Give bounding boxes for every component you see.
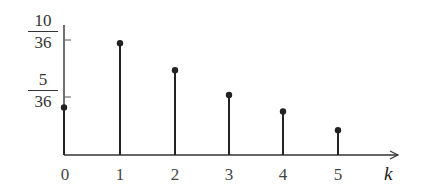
ytick-denominator: 36 [28,91,58,110]
ytick-numerator: 5 [28,71,58,91]
xtick-label-4: 4 [273,165,293,185]
stem-marker-4 [280,108,286,114]
stems [61,40,341,155]
ytick-label-5-36: 5 36 [28,71,58,110]
x-axis-label: k [384,163,392,185]
stem-marker-1 [117,40,123,46]
stem-marker-2 [172,67,178,73]
stem-marker-0 [61,104,67,110]
xtick-label-5: 5 [328,165,348,185]
xtick-label-0: 0 [55,165,75,185]
stem-marker-3 [226,92,232,98]
xtick-label-2: 2 [165,165,185,185]
xtick-label-3: 3 [219,165,239,185]
ytick-numerator: 10 [28,12,58,32]
ytick-label-10-36: 10 36 [28,12,58,51]
xtick-label-1: 1 [110,165,130,185]
ytick-denominator: 36 [28,32,58,51]
stem-plot [0,0,422,191]
stem-marker-5 [335,127,341,133]
